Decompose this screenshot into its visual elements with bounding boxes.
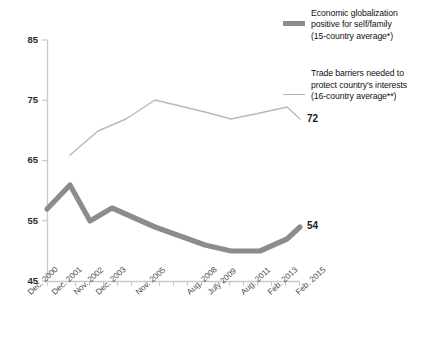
legend-label-line3: (16-country average**) <box>311 91 423 102</box>
legend-label-line2: protect country's interests <box>311 80 423 91</box>
y-tick-55: 55 <box>14 215 38 226</box>
line-chart: 85 75 65 55 45 Dec. 2000 Dec. 2001 Nov. … <box>0 0 424 341</box>
y-tick-75: 75 <box>14 94 38 105</box>
endpoint-label-economic-globalization: 54 <box>307 220 318 231</box>
legend-swatch-thin-line-icon <box>283 94 305 95</box>
series-line-economic-globalization <box>47 185 300 251</box>
legend-label-line1: Economic globalization <box>311 8 423 19</box>
legend-label-line3: (15-country average*) <box>311 31 423 42</box>
series-line-trade-barriers <box>70 100 300 155</box>
legend-swatch-thick-line-icon <box>283 21 305 26</box>
legend-label-line1: Trade barriers needed to <box>311 68 423 79</box>
y-tick-65: 65 <box>14 154 38 165</box>
legend-entry-trade-barriers: Trade barriers needed to protect country… <box>283 68 423 102</box>
legend-entry-economic-globalization: Economic globalization positive for self… <box>283 8 423 42</box>
y-tick-85: 85 <box>14 34 38 45</box>
legend-label-line2: positive for self/family <box>311 19 423 30</box>
y-axis-ticks <box>42 40 48 281</box>
chart-legend: Economic globalization positive for self… <box>283 8 423 118</box>
